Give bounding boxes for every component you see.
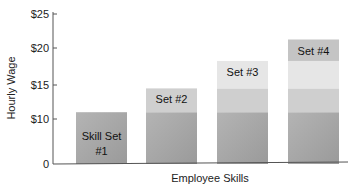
- bar-segment-3-1: [217, 112, 268, 164]
- skills-wage-chart: Skill Set#1Set #2Set #3Set #4 0$10$15$20…: [0, 0, 352, 193]
- bar-label-3: Set #3: [227, 66, 259, 78]
- bar-label-4: Set #4: [298, 45, 330, 57]
- bar-segment-3-2: [217, 88, 268, 112]
- y-axis-title: Hourly Wage: [5, 56, 17, 119]
- bar-segment-4-2: [288, 88, 339, 112]
- bar-segment-4-3: [288, 61, 339, 88]
- y-tick-label: 0: [43, 158, 49, 170]
- x-axis-title: Employee Skills: [171, 172, 249, 184]
- y-tick-label: $15: [31, 79, 49, 91]
- y-tick-label: $10: [31, 113, 49, 125]
- bar-label-2: Set #2: [156, 93, 188, 105]
- bar-segment-4-1: [288, 112, 339, 164]
- y-tick-label: $25: [31, 8, 49, 20]
- y-tick-label: $20: [31, 42, 49, 54]
- bars-group: Skill Set#1Set #2Set #3Set #4: [76, 40, 339, 165]
- bar-segment-2-1: [146, 112, 197, 164]
